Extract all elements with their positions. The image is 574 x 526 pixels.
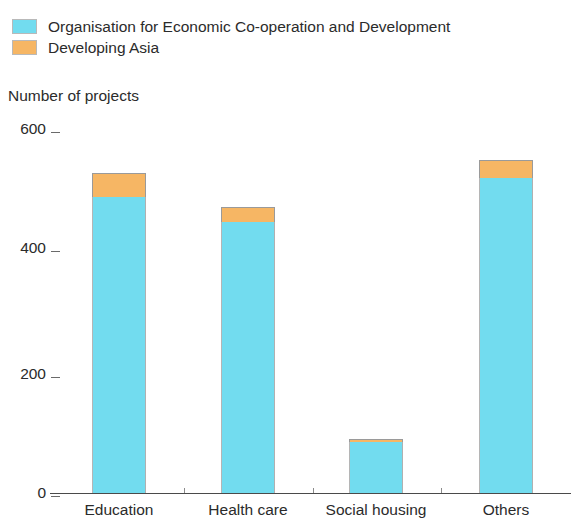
bar-social-housing[interactable] xyxy=(349,439,403,493)
y-tick-dash xyxy=(51,496,60,497)
x-label-education: Education xyxy=(59,500,179,520)
bar-segment-oecd xyxy=(92,197,146,493)
bar-segment-developing-asia xyxy=(479,160,533,178)
bar-education[interactable] xyxy=(92,173,146,493)
y-tick-400: 400 xyxy=(0,238,60,258)
bar-chart: Organisation for Economic Co-operation a… xyxy=(0,0,574,526)
bar-health-care[interactable] xyxy=(221,207,275,493)
y-tick-dash xyxy=(51,251,60,252)
y-tick-dash xyxy=(51,377,60,378)
x-axis-line xyxy=(50,493,571,494)
bar-segment-developing-asia xyxy=(92,173,146,197)
x-axis-tick xyxy=(184,488,185,493)
y-tick-600: 600 xyxy=(0,119,60,139)
x-label-others: Others xyxy=(446,500,566,520)
x-axis-tick xyxy=(441,488,442,493)
bar-segment-developing-asia xyxy=(349,439,403,442)
x-axis-tick xyxy=(313,488,314,493)
plot-area: 600 400 200 0 xyxy=(0,0,574,526)
bar-segment-oecd xyxy=(479,178,533,493)
x-label-health-care: Health care xyxy=(188,500,308,520)
bar-segment-oecd xyxy=(349,442,403,493)
bar-segment-oecd xyxy=(221,222,275,493)
bar-segment-developing-asia xyxy=(221,207,275,222)
y-tick-dash xyxy=(51,132,60,133)
x-label-social-housing: Social housing xyxy=(301,500,451,520)
y-tick-200: 200 xyxy=(0,364,60,384)
bar-others[interactable] xyxy=(479,160,533,493)
